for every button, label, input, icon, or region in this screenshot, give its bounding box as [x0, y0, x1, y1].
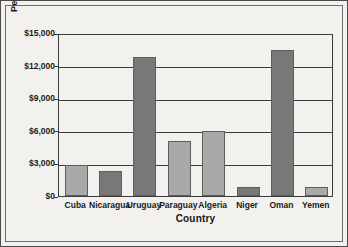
y-tick-mark	[54, 66, 58, 67]
bar-nicaragua	[99, 171, 122, 196]
y-tick-mark	[54, 164, 58, 165]
bar-paraguay	[168, 141, 191, 196]
bar-uruguay	[133, 57, 156, 196]
bar-algeria	[202, 131, 225, 196]
bar-yemen	[305, 187, 328, 196]
y-tick-mark	[54, 99, 58, 100]
y-axis-title: Per capita GDP, 2003	[7, 0, 21, 48]
bar-cuba	[65, 165, 88, 197]
y-tick-label: $15,000	[5, 28, 55, 38]
plot-area	[58, 34, 333, 197]
bar-oman	[271, 50, 294, 196]
y-tick-mark	[54, 197, 58, 198]
y-tick-mark	[54, 131, 58, 132]
x-axis-title: Country	[58, 213, 333, 224]
y-tick-label: $3,000	[5, 158, 55, 168]
y-tick-label: $12,000	[5, 61, 55, 71]
bar-niger	[237, 187, 260, 196]
x-tick-label-yemen: Yemen	[286, 200, 346, 210]
y-tick-mark	[54, 34, 58, 35]
y-tick-label: $9,000	[5, 93, 55, 103]
bars-group	[59, 35, 332, 196]
y-tick-label: $6,000	[5, 126, 55, 136]
bar-chart-figure: Per capita GDP, 2003 $0$3,000$6,000$9,00…	[0, 0, 348, 247]
